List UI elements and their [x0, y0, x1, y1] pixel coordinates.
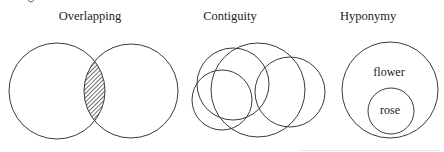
clipped-caption-fragment [28, 0, 34, 2]
panel-overlapping: Overlapping [9, 9, 178, 139]
hypernym-label: flower [373, 65, 404, 79]
panel-hyponymy: Hyponymy flower rose [340, 9, 438, 138]
panel-title-contiguity: Contiguity [203, 9, 257, 23]
contiguity-circle-upper-left [197, 48, 269, 120]
bottom-rule [300, 150, 440, 151]
panel-title-overlapping: Overlapping [59, 9, 122, 23]
panel-contiguity: Contiguity [192, 9, 325, 137]
semantic-relations-diagram: Overlapping Contiguity Hyponymy flower r… [0, 0, 444, 152]
hyponym-label: rose [380, 103, 400, 117]
hypernym-circle [342, 42, 438, 138]
contiguity-circle-right [255, 57, 325, 127]
panel-title-hyponymy: Hyponymy [340, 9, 397, 23]
